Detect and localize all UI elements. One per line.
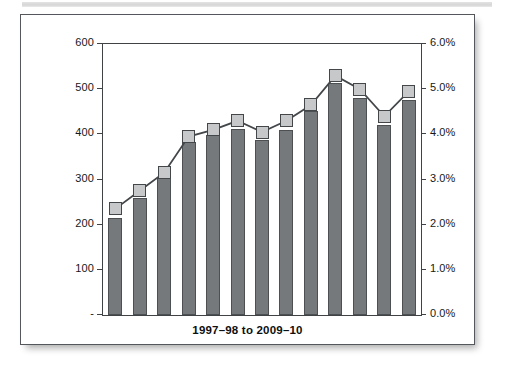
y-axis-right-tick-label: 5.0% xyxy=(430,81,455,93)
y-axis-left-tick-label: 400 xyxy=(58,126,94,138)
y-axis-left-tick-label: 600 xyxy=(58,36,94,48)
y-axis-right-tick-label: 1.0% xyxy=(430,262,455,274)
chart-figure-frame: 600500400300200100- 6.0%5.0%4.0%3.0%2.0%… xyxy=(20,14,475,345)
line-marker xyxy=(256,126,269,139)
y-axis-left-tick-label: 200 xyxy=(58,217,94,229)
line-marker xyxy=(402,85,415,98)
line-marker xyxy=(109,202,122,215)
line-marker xyxy=(207,123,220,136)
y-axis-right-tick-label: 2.0% xyxy=(430,217,455,229)
top-decorative-band xyxy=(22,2,492,7)
line-marker xyxy=(133,184,146,197)
line-series xyxy=(103,44,421,315)
line-marker xyxy=(158,166,171,179)
x-axis-title: 1997–98 to 2009–10 xyxy=(21,324,474,336)
y-axis-right-tick-label: 6.0% xyxy=(430,36,455,48)
y-axis-left-tick-label: 300 xyxy=(58,172,94,184)
y-axis-left-tick-label: - xyxy=(58,307,94,319)
plot-region xyxy=(102,43,422,316)
line-marker xyxy=(353,83,366,96)
line-marker xyxy=(378,110,391,123)
y-axis-right-tick-label: 3.0% xyxy=(430,172,455,184)
y-axis-left-tick-label: 500 xyxy=(58,81,94,93)
line-marker xyxy=(182,130,195,143)
y-axis-left-tick-label: 100 xyxy=(58,262,94,274)
line-marker xyxy=(304,98,317,111)
line-marker xyxy=(329,69,342,82)
y-axis-right-tick-label: 4.0% xyxy=(430,126,455,138)
y-axis-right-tick-label: 0.0% xyxy=(430,307,455,319)
line-marker xyxy=(280,114,293,127)
chart-area: 600500400300200100- 6.0%5.0%4.0%3.0%2.0%… xyxy=(21,15,474,344)
line-marker xyxy=(231,114,244,127)
